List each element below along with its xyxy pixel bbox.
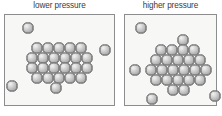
cluster-particle [50,82,61,93]
panel-box-lower-pressure [4,14,115,106]
free-particle [99,44,110,55]
free-particle [146,93,157,104]
free-particle [129,64,140,75]
free-particle [22,22,33,33]
cluster-particle [31,72,42,83]
cluster-particle [167,84,178,95]
panel-label-lower-pressure: lower pressure [4,0,115,11]
panel-box-higher-pressure [124,14,217,106]
panel-label-higher-pressure: higher pressure [124,0,217,11]
cluster-particle [194,74,205,85]
free-particle [209,90,220,101]
particle-layer-higher-pressure [125,15,216,105]
free-particle [6,80,17,91]
cluster-particle [64,72,75,83]
cluster-particle [150,74,161,85]
free-particle [135,22,146,33]
particle-layer-lower-pressure [5,15,114,105]
gas-pressure-comparison-figure: lower pressure higher pressure [0,0,222,116]
cluster-particle [75,72,86,83]
cluster-particle [178,84,189,95]
